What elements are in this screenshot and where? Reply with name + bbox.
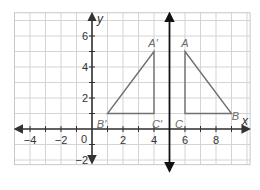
- vertex-label: A: [180, 37, 188, 49]
- x-axis-label: x: [241, 114, 249, 128]
- vertex-label: C′: [152, 118, 163, 130]
- coordinate-plane-svg: −4−22468642−2 ABCA′B′C′ x y 0: [0, 0, 260, 190]
- coordinate-plane: −4−22468642−2 ABCA′B′C′ x y 0: [0, 0, 260, 190]
- origin-label: 0: [81, 133, 87, 145]
- vertex-label: A′: [147, 37, 158, 49]
- y-tick-label: −2: [75, 154, 88, 166]
- y-tick-label: 6: [82, 30, 88, 42]
- x-tick-label: −4: [24, 134, 37, 146]
- y-tick-label: 4: [82, 61, 88, 73]
- vertex-label: C: [175, 118, 183, 130]
- y-tick-label: 2: [82, 92, 88, 104]
- x-tick-label: −2: [55, 134, 68, 146]
- x-tick-label: 8: [213, 134, 219, 146]
- x-tick-label: 4: [151, 134, 157, 146]
- y-axis-label: y: [96, 12, 104, 26]
- x-tick-label: 6: [182, 134, 188, 146]
- x-tick-label: 2: [120, 134, 126, 146]
- vertex-label: B′: [97, 118, 107, 130]
- vertex-label: B: [232, 110, 239, 122]
